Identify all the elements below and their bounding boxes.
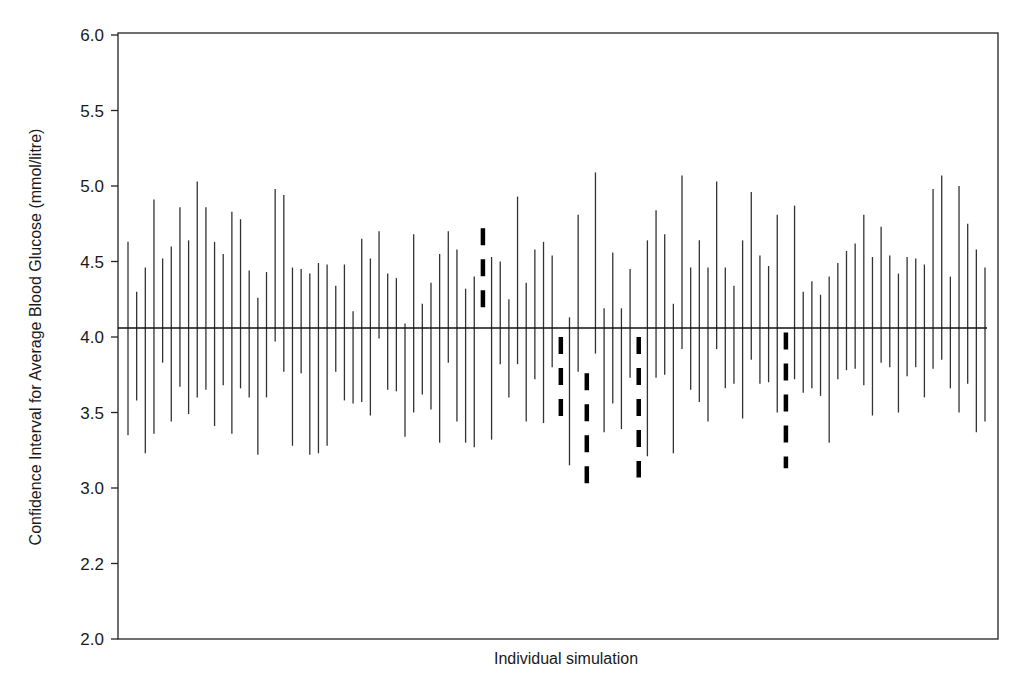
chart-canvas: 6.05.55.04.54.03.53.02.22.0 Individual s… [0,0,1024,679]
y-tick-label: 3.5 [80,404,104,423]
y-tick-label: 2.0 [80,630,104,649]
y-tick-label: 5.0 [80,177,104,196]
confidence-interval-chart: 6.05.55.04.54.03.53.02.22.0 Individual s… [0,0,1024,679]
y-tick-label: 4.0 [80,328,104,347]
y-tick-label: 2.2 [80,555,104,574]
y-tick-label: 5.5 [80,102,104,121]
plot-frame [118,33,998,639]
y-axis-title: Confidence Interval for Average Blood Gl… [27,129,44,546]
y-tick-label: 3.0 [80,479,104,498]
y-tick-label: 4.5 [80,253,104,272]
plot-border [118,33,998,639]
y-tick-label: 6.0 [80,26,104,45]
y-axis: 6.05.55.04.54.03.53.02.22.0 [80,26,118,649]
x-axis-title: Individual simulation [494,650,638,667]
